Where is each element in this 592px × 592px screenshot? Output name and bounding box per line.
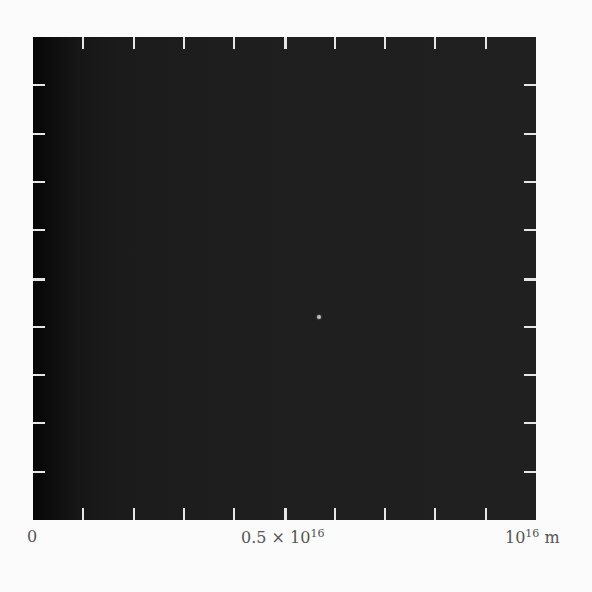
- tick-mark-right: [524, 471, 536, 473]
- tick-mark-left: [33, 471, 45, 473]
- x-tick-label-end-base: 10: [505, 528, 525, 547]
- tick-mark-top: [485, 37, 487, 49]
- tick-mark-bottom: [82, 508, 84, 520]
- tick-mark-right: [524, 326, 536, 328]
- tick-mark-right: [524, 278, 536, 281]
- x-tick-label-mid-exp: 16: [310, 527, 324, 540]
- tick-mark-right: [524, 374, 536, 376]
- tick-mark-left: [33, 326, 45, 328]
- tick-mark-top: [233, 37, 235, 49]
- tick-mark-left: [33, 422, 45, 424]
- tick-mark-right: [524, 181, 536, 183]
- tick-mark-top: [284, 37, 287, 49]
- tick-mark-bottom: [233, 508, 235, 520]
- tick-mark-top: [183, 37, 185, 49]
- tick-mark-right: [524, 84, 536, 86]
- x-tick-label-end-exp: 16: [525, 527, 539, 540]
- x-axis-unit: m: [539, 528, 559, 547]
- tick-mark-left: [33, 278, 45, 281]
- x-tick-label-mid: 0.5 × 1016: [241, 527, 324, 547]
- tick-mark-bottom: [485, 508, 487, 520]
- tick-mark-top: [384, 37, 386, 49]
- tick-mark-right: [524, 422, 536, 424]
- tick-mark-right: [524, 229, 536, 231]
- plot-area: [33, 37, 536, 520]
- tick-mark-bottom: [183, 508, 185, 520]
- tick-mark-left: [33, 374, 45, 376]
- tick-mark-top: [133, 37, 135, 49]
- tick-mark-bottom: [284, 508, 287, 520]
- x-tick-label-end: 1016 m: [505, 527, 560, 547]
- tick-mark-right: [524, 133, 536, 135]
- tick-mark-top: [434, 37, 436, 49]
- tick-mark-bottom: [384, 508, 386, 520]
- x-tick-label-mid-base: 0.5 × 10: [241, 528, 310, 547]
- tick-mark-left: [33, 84, 45, 86]
- point-source-marker: [317, 315, 321, 319]
- tick-mark-bottom: [334, 508, 336, 520]
- tick-mark-left: [33, 229, 45, 231]
- tick-mark-top: [334, 37, 336, 49]
- tick-mark-left: [33, 133, 45, 135]
- tick-mark-left: [33, 181, 45, 183]
- tick-mark-top: [82, 37, 84, 49]
- tick-mark-bottom: [133, 508, 135, 520]
- tick-mark-bottom: [434, 508, 436, 520]
- x-tick-label-zero: 0: [27, 527, 37, 546]
